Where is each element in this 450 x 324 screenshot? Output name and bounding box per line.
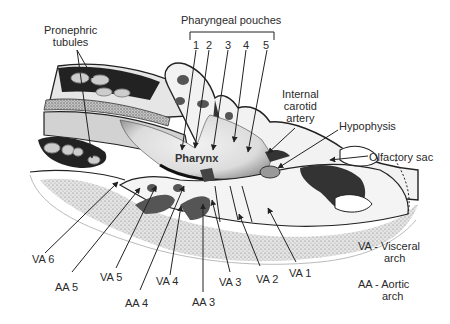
label-internal-carotid-artery: Internal carotid artery <box>282 88 319 124</box>
legend-abbr: AA - Aortic <box>358 278 409 290</box>
label-pharynx: Pharynx <box>175 152 218 164</box>
pouch-number-3: 3 <box>225 39 231 51</box>
legend-aortic-arch: AA - Aortic arch <box>358 278 409 302</box>
label-line: Internal <box>282 88 319 100</box>
pouch-number-4: 4 <box>243 39 249 51</box>
label-aa4: AA 4 <box>125 297 148 309</box>
label-va5: VA 5 <box>100 271 122 283</box>
label-line: tubules <box>44 36 97 48</box>
label-pronephric-tubules: Pronephric tubules <box>44 24 97 48</box>
legend-visceral-arch: VA - Visceral arch <box>358 240 420 264</box>
label-aa3: AA 3 <box>192 296 215 308</box>
legend-cont: arch <box>358 252 420 264</box>
label-aa5: AA 5 <box>55 281 78 293</box>
pouch-number-5: 5 <box>263 39 269 51</box>
pouch-number-1: 1 <box>193 39 199 51</box>
label-olfactory-sac: Olfactory sac <box>369 151 433 163</box>
label-hypophysis: Hypophysis <box>339 120 396 132</box>
pouch-number-2: 2 <box>206 39 212 51</box>
legend-abbr: VA - Visceral <box>358 240 420 252</box>
label-line: artery <box>282 112 319 124</box>
label-line: carotid <box>282 100 319 112</box>
label-line: Pronephric <box>44 24 97 36</box>
label-va3: VA 3 <box>219 276 241 288</box>
label-va4: VA 4 <box>156 275 178 287</box>
legend-cont: arch <box>358 290 409 302</box>
label-va1: VA 1 <box>289 267 311 279</box>
label-va2: VA 2 <box>256 273 278 285</box>
label-va6: VA 6 <box>32 253 54 265</box>
label-pharyngeal-pouches: Pharyngeal pouches <box>181 14 281 26</box>
